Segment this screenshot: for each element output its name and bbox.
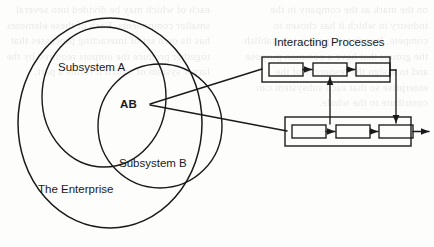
connector-ab-to-bottom-group [150,105,287,131]
top-group-outer-box [262,57,390,82]
top-process-box-1 [269,63,303,76]
top-process-box-2 [313,63,347,76]
label-ab-intersection: AB [120,99,137,111]
figure-root: on the mark as the company in the indust… [0,0,434,247]
label-enterprise: The Enterprise [38,184,113,196]
connector-ab-to-top-group [150,69,262,104]
subsystem-a-ellipse [42,27,166,167]
bottom-process-box-3 [379,125,413,138]
label-subsystem-a: Subsystem A [58,62,125,74]
top-process-box-3 [356,63,390,76]
label-interacting-processes: Interacting Processes [274,37,385,49]
label-subsystem-b: Subsystem B [119,158,187,170]
bottom-group-outer-box [285,117,411,146]
bottom-process-box-2 [336,125,370,138]
bottom-process-box-1 [292,125,326,138]
